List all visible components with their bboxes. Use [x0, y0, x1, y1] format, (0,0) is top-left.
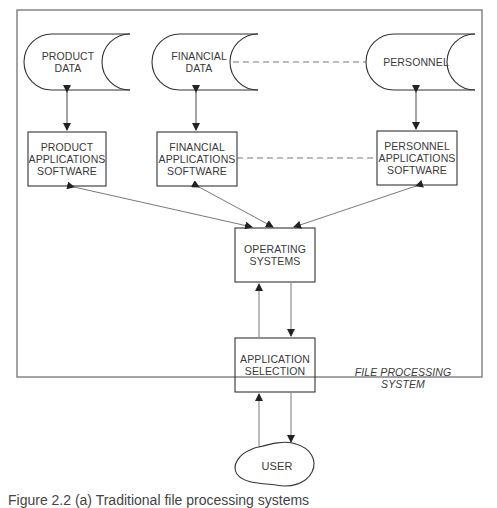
- user-label: USER: [250, 460, 304, 472]
- product-apps-label: PRODUCTAPPLICATIONSSOFTWARE: [28, 141, 106, 177]
- personnel-apps-label: PERSONNELAPPLICATIONSSOFTWARE: [377, 140, 457, 176]
- financial-data-label: FINANCIALDATA: [166, 50, 232, 74]
- arrow-financial-os: [199, 187, 273, 227]
- file-processing-system-label: FILE PROCESSINGSYSTEM: [348, 366, 458, 390]
- personnel-data-label: PERSONNEL: [380, 56, 452, 68]
- operating-systems-label: OPERATINGSYSTEMS: [235, 243, 315, 267]
- application-selection-label: APPLICATIONSELECTION: [235, 353, 315, 377]
- arrow-personnel-os: [294, 186, 416, 227]
- arrow-product-os: [74, 187, 252, 227]
- product-data-label: PRODUCTDATA: [38, 50, 98, 74]
- financial-apps-label: FINANCIALAPPLICATIONSSOFTWARE: [157, 141, 237, 177]
- figure-caption: Figure 2.2 (a) Traditional file processi…: [8, 492, 309, 508]
